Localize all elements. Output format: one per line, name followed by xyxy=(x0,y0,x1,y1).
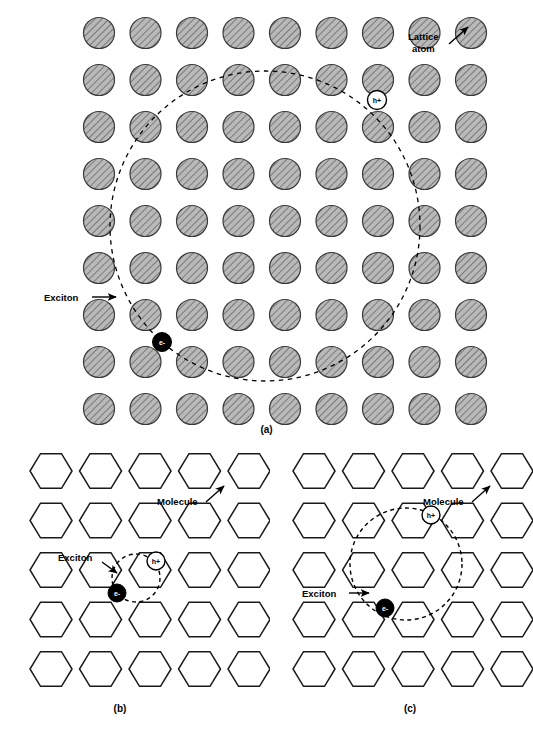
lattice-atom xyxy=(316,112,347,143)
panel-c-caption: (c) xyxy=(310,703,510,714)
hole-label: h+ xyxy=(427,512,435,519)
lattice-atom xyxy=(456,18,487,49)
lattice-atom-label-line1: Lattice xyxy=(408,31,439,42)
molecule-hexagon xyxy=(491,652,533,687)
lattice-atom xyxy=(84,18,115,49)
lattice-atom xyxy=(316,18,347,49)
panel-a-electron-marker: e- xyxy=(153,333,172,352)
electron-label: e- xyxy=(114,590,121,597)
molecule-hexagon xyxy=(80,602,122,637)
panel-b-molecular-frenkel: h+ e- Molecule Exciton xyxy=(20,438,270,718)
lattice-atom xyxy=(177,159,208,190)
lattice-atom xyxy=(177,253,208,284)
lattice-atom xyxy=(223,253,254,284)
lattice-atom xyxy=(177,112,208,143)
lattice-atom xyxy=(84,347,115,378)
hole-label: h+ xyxy=(152,558,160,565)
lattice-atom xyxy=(456,394,487,425)
lattice-atom xyxy=(456,159,487,190)
lattice-atom xyxy=(270,253,301,284)
molecule-hexagon xyxy=(30,454,72,489)
lattice-atom xyxy=(409,394,440,425)
molecule-hexagon xyxy=(491,503,533,538)
lattice-atom xyxy=(363,112,394,143)
lattice-atom xyxy=(130,206,161,237)
lattice-atom xyxy=(84,394,115,425)
lattice-atom xyxy=(456,65,487,96)
lattice-atom xyxy=(223,65,254,96)
molecule-hexagon xyxy=(293,503,335,538)
molecule-hexagon xyxy=(392,652,434,687)
molecule-hexagon xyxy=(228,503,270,538)
lattice-atom-label-line2: atom xyxy=(412,43,435,54)
lattice-atom xyxy=(223,300,254,331)
molecule-hexagon xyxy=(343,503,385,538)
molecule-hexagon xyxy=(30,503,72,538)
lattice-atom xyxy=(363,347,394,378)
molecule-hexagon xyxy=(179,454,221,489)
panel-c-exciton-annotation: Exciton xyxy=(302,588,369,599)
panel-b-caption: (b) xyxy=(20,703,220,714)
electron-label: e- xyxy=(382,605,389,612)
lattice-atom xyxy=(223,206,254,237)
lattice-atom xyxy=(223,394,254,425)
lattice-atom xyxy=(316,206,347,237)
lattice-atom xyxy=(177,300,208,331)
panel-a-atom-grid xyxy=(84,18,487,425)
lattice-atom xyxy=(409,347,440,378)
lattice-atom xyxy=(177,394,208,425)
lattice-atom xyxy=(84,253,115,284)
molecule-hexagon xyxy=(442,652,484,687)
panel-a-atomic-lattice: h+ e- Lattice atom Exciton xyxy=(0,0,533,430)
molecule-hexagon xyxy=(129,602,171,637)
lattice-atom xyxy=(363,300,394,331)
molecule-hexagon xyxy=(80,454,122,489)
lattice-atom xyxy=(409,206,440,237)
panel-b-molecule-grid xyxy=(30,454,270,687)
lattice-atom xyxy=(130,65,161,96)
panel-b-exciton-annotation: Exciton xyxy=(58,552,117,573)
molecule-hexagon xyxy=(228,602,270,637)
molecule-hexagon xyxy=(228,652,270,687)
molecule-hexagon xyxy=(293,602,335,637)
molecule-hexagon xyxy=(343,553,385,588)
lattice-atom xyxy=(270,18,301,49)
lattice-atom xyxy=(84,112,115,143)
molecule-hexagon xyxy=(179,652,221,687)
lattice-atom xyxy=(270,394,301,425)
lattice-atom xyxy=(316,394,347,425)
molecule-hexagon xyxy=(293,652,335,687)
molecule-hexagon xyxy=(293,454,335,489)
lattice-atom xyxy=(130,347,161,378)
lattice-atom xyxy=(84,159,115,190)
lattice-atom xyxy=(409,112,440,143)
molecule-hexagon xyxy=(30,652,72,687)
molecule-hexagon xyxy=(442,454,484,489)
exciton-label: Exciton xyxy=(58,552,93,563)
lattice-atom xyxy=(84,300,115,331)
panel-a-hole-marker: h+ xyxy=(368,91,387,110)
lattice-atom xyxy=(270,300,301,331)
panel-a-caption: (a) xyxy=(0,424,533,435)
lattice-atom xyxy=(409,253,440,284)
lattice-atom xyxy=(130,300,161,331)
lattice-atom xyxy=(456,300,487,331)
molecule-hexagon xyxy=(491,602,533,637)
lattice-atom xyxy=(363,206,394,237)
lattice-atom xyxy=(177,206,208,237)
lattice-atom xyxy=(84,65,115,96)
lattice-atom xyxy=(456,347,487,378)
panel-b-molecule-annotation: Molecule xyxy=(157,486,224,507)
exciton-label: Exciton xyxy=(44,292,79,303)
lattice-atom xyxy=(409,300,440,331)
molecule-hexagon xyxy=(179,602,221,637)
lattice-atom xyxy=(223,18,254,49)
molecule-hexagon xyxy=(442,553,484,588)
lattice-atom xyxy=(270,65,301,96)
lattice-atom xyxy=(223,112,254,143)
lattice-atom xyxy=(223,347,254,378)
panel-b-hole-marker: h+ xyxy=(147,552,165,570)
lattice-atom xyxy=(363,394,394,425)
molecule-arrow-icon xyxy=(472,486,490,502)
lattice-atom xyxy=(316,253,347,284)
